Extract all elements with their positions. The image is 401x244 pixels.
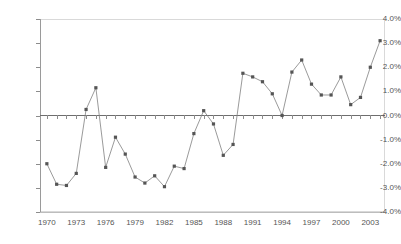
- x-axis-line: [40, 212, 385, 213]
- y-tick-label: -1.0%: [367, 136, 401, 144]
- x-tick-mark: [223, 115, 224, 119]
- x-tick-mark: [115, 115, 116, 119]
- x-tick-mark: [135, 115, 136, 119]
- x-tick-mark: [204, 115, 205, 119]
- x-tick-mark: [164, 115, 165, 119]
- x-tick-mark: [331, 115, 332, 119]
- y-tick-mark: [36, 67, 40, 68]
- y-tick-label: 2.0%: [367, 63, 401, 71]
- x-tick-mark: [213, 115, 214, 119]
- x-tick-label: 1970: [38, 218, 56, 227]
- x-tick-mark: [66, 115, 67, 119]
- x-tick-mark: [253, 115, 254, 119]
- y-tick-mark: [36, 91, 40, 92]
- x-tick-mark: [184, 115, 185, 119]
- x-tick-mark: [272, 115, 273, 119]
- y-tick-label: 3.0%: [367, 39, 401, 47]
- x-tick-mark: [321, 115, 322, 119]
- y-tick-mark: [36, 116, 40, 117]
- x-tick-mark: [125, 115, 126, 119]
- x-tick-mark: [57, 115, 58, 119]
- x-tick-mark: [243, 115, 244, 119]
- x-tick-mark: [194, 115, 195, 119]
- y-tick-label: 0.0%: [367, 112, 401, 120]
- x-tick-mark: [370, 115, 371, 119]
- y-tick-mark: [36, 43, 40, 44]
- x-tick-mark: [86, 115, 87, 119]
- x-tick-mark: [380, 115, 381, 119]
- x-tick-label: 1982: [156, 218, 174, 227]
- x-tick-mark: [351, 115, 352, 119]
- y-tick-mark: [36, 164, 40, 165]
- x-tick-mark: [76, 115, 77, 119]
- x-tick-label: 2003: [361, 218, 379, 227]
- x-tick-label: 2000: [332, 218, 350, 227]
- x-tick-mark: [145, 115, 146, 119]
- y-tick-mark: [36, 212, 40, 213]
- y-tick-label: -3.0%: [367, 184, 401, 192]
- x-tick-mark: [311, 115, 312, 119]
- y-tick-label: -2.0%: [367, 160, 401, 168]
- x-tick-mark: [292, 115, 293, 119]
- y-tick-label: -4.0%: [367, 208, 401, 216]
- y-tick-mark: [36, 140, 40, 141]
- x-tick-mark: [341, 115, 342, 119]
- x-tick-label: 1985: [185, 218, 203, 227]
- x-tick-label: 1997: [303, 218, 321, 227]
- x-tick-mark: [302, 115, 303, 119]
- y-tick-mark: [36, 188, 40, 189]
- x-tick-label: 1979: [126, 218, 144, 227]
- x-tick-mark: [360, 115, 361, 119]
- y-axis-line: [40, 19, 41, 213]
- y-tick-label: 1.0%: [367, 87, 401, 95]
- x-tick-mark: [262, 115, 263, 119]
- x-tick-mark: [282, 115, 283, 119]
- x-tick-mark: [106, 115, 107, 119]
- x-tick-mark: [155, 115, 156, 119]
- x-tick-mark: [174, 115, 175, 119]
- x-tick-label: 1991: [244, 218, 262, 227]
- x-tick-mark: [96, 115, 97, 119]
- y-tick-label: 4.0%: [367, 15, 401, 23]
- chart-container: 4.0%3.0%2.0%1.0%0.0%-1.0%-2.0%-3.0%-4.0%…: [0, 0, 401, 244]
- y-tick-mark: [36, 19, 40, 20]
- x-tick-label: 1973: [67, 218, 85, 227]
- x-tick-label: 1976: [97, 218, 115, 227]
- x-tick-label: 1988: [214, 218, 232, 227]
- x-tick-label: 1994: [273, 218, 291, 227]
- x-tick-mark: [233, 115, 234, 119]
- x-tick-mark: [47, 115, 48, 119]
